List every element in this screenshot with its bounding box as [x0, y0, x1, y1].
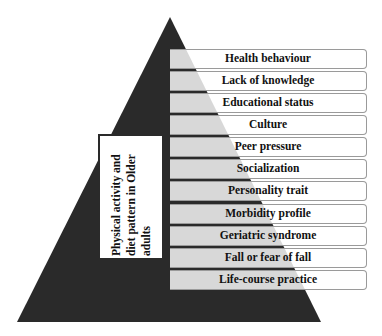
pyramid-diagram: Health behaviour Lack of knowledge Educa… [0, 0, 382, 336]
factor-box-lack-of-knowledge: Lack of knowledge [170, 71, 367, 91]
factor-box-peer-pressure: Peer pressure [170, 137, 367, 157]
factor-box-culture: Culture [170, 115, 367, 135]
central-label-box: Physical activity and diet pattern in Ol… [98, 134, 164, 260]
factor-box-health-behaviour: Health behaviour [170, 49, 367, 69]
factor-label: Health behaviour [225, 53, 311, 65]
factor-label: Socialization [237, 163, 300, 175]
factor-label: Peer pressure [235, 141, 302, 153]
central-label-line: Physical activity and [109, 138, 124, 256]
factor-box-personality-trait: Personality trait [170, 181, 367, 201]
factor-label: Culture [249, 119, 287, 131]
factor-label: Personality trait [228, 185, 308, 197]
central-label-line: diet pattern in Older [124, 138, 139, 256]
factor-box-educational-status: Educational status [170, 93, 367, 113]
factor-box-morbidity-profile: Morbidity profile [170, 204, 367, 224]
factor-label: Lack of knowledge [222, 75, 315, 87]
central-label-line: adults [139, 138, 154, 256]
factor-box-fall-or-fear-of-fall: Fall or fear of fall [170, 248, 367, 268]
factor-label: Life-course practice [219, 274, 317, 286]
factor-label: Fall or fear of fall [225, 252, 311, 264]
factor-label: Educational status [222, 97, 313, 109]
factor-box-geriatric-syndrome: Geriatric syndrome [170, 226, 367, 246]
central-label: Physical activity and diet pattern in Ol… [109, 138, 154, 256]
factor-label: Geriatric syndrome [220, 230, 317, 242]
factor-box-socialization: Socialization [170, 159, 367, 179]
factor-label: Morbidity profile [225, 208, 311, 220]
factor-box-life-course-practice: Life-course practice [170, 270, 367, 290]
